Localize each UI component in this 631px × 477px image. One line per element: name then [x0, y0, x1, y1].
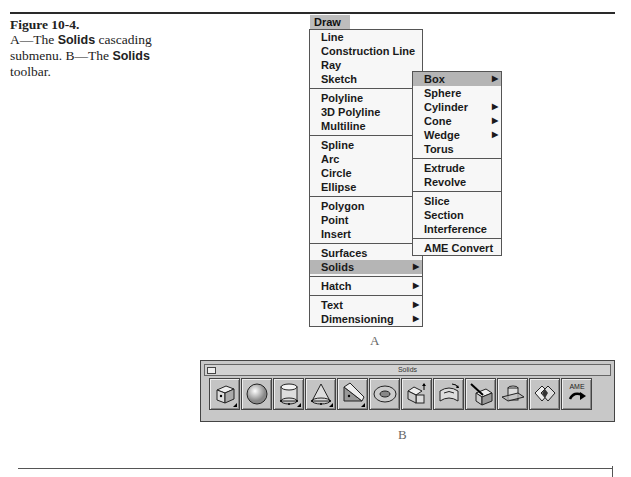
menu-item-label: Revolve — [424, 176, 466, 188]
draw-menu: LineConstruction LineRaySketchPolyline3D… — [309, 29, 423, 327]
menubar-draw[interactable]: Draw — [310, 15, 350, 29]
draw-menu-item-circle[interactable]: Circle — [310, 166, 422, 180]
menu-item-label: Text — [321, 299, 343, 311]
menu-item-label: Multiline — [321, 120, 366, 132]
draw-menu-item-polygon[interactable]: Polygon — [310, 199, 422, 213]
menu-item-label: Point — [321, 214, 349, 226]
draw-menu-item-ray[interactable]: Ray — [310, 58, 422, 72]
menu-item-label: AME Convert — [424, 242, 493, 254]
solids-menu-item-cylinder[interactable]: Cylinder▶ — [413, 100, 501, 114]
control-menu-box[interactable] — [207, 367, 216, 374]
flyout-indicator-icon — [361, 403, 365, 407]
bottom-rule-edge — [612, 466, 613, 477]
draw-menu-item-line[interactable]: Line — [310, 30, 422, 44]
submenu-arrow-icon: ▶ — [492, 114, 498, 128]
toolbar-buttons: AME — [209, 378, 593, 410]
slice-button[interactable] — [465, 378, 496, 410]
draw-menu-item-point[interactable]: Point — [310, 213, 422, 227]
wedge-button[interactable] — [337, 378, 368, 410]
draw-menu-item-multiline[interactable]: Multiline — [310, 119, 422, 133]
section-button[interactable] — [497, 378, 528, 410]
menu-item-label: Box — [424, 73, 445, 85]
bottom-rule — [18, 468, 613, 469]
menu-item-label: Circle — [321, 167, 352, 179]
draw-menu-item-insert[interactable]: Insert — [310, 227, 422, 241]
revolve-icon — [436, 381, 462, 407]
draw-menu-item-solids[interactable]: Solids▶ — [310, 260, 422, 274]
draw-menu-item-dimensioning[interactable]: Dimensioning▶ — [310, 312, 422, 326]
draw-menu-item-sketch[interactable]: Sketch — [310, 72, 422, 86]
interference-button[interactable] — [529, 378, 560, 410]
figure-title: Figure 10-4. — [10, 17, 185, 32]
sphere-button[interactable] — [241, 378, 272, 410]
menu-item-label: Polyline — [321, 92, 363, 104]
solids-menu-item-wedge[interactable]: Wedge▶ — [413, 128, 501, 142]
draw-menu-item-ellipse[interactable]: Ellipse — [310, 180, 422, 194]
menu-item-label: Section — [424, 209, 464, 221]
menu-separator — [310, 135, 422, 136]
menu-item-label: Extrude — [424, 162, 465, 174]
solids-menu-item-interference[interactable]: Interference — [413, 222, 501, 236]
extrude-icon — [404, 381, 430, 407]
slice-icon — [468, 381, 494, 407]
toolbar-title-bar[interactable]: Solids — [204, 364, 611, 376]
menu-separator — [413, 158, 501, 159]
solids-menu-item-slice[interactable]: Slice — [413, 194, 501, 208]
submenu-arrow-icon: ▶ — [492, 128, 498, 142]
solids-menu-item-cone[interactable]: Cone▶ — [413, 114, 501, 128]
submenu-arrow-icon: ▶ — [413, 279, 419, 293]
solids-menu-item-sphere[interactable]: Sphere — [413, 86, 501, 100]
menu-item-label: Line — [321, 31, 344, 43]
interference-icon — [532, 381, 558, 407]
menu-item-label: Cone — [424, 115, 452, 127]
draw-menu-item-arc[interactable]: Arc — [310, 152, 422, 166]
svg-text:AME: AME — [569, 383, 585, 390]
draw-menu-item-construction-line[interactable]: Construction Line — [310, 44, 422, 58]
draw-menu-item-3d-polyline[interactable]: 3D Polyline — [310, 105, 422, 119]
figure-caption: Figure 10-4. A—The Solids cascading subm… — [10, 17, 185, 79]
menu-item-label: Dimensioning — [321, 313, 394, 325]
ame-convert-button[interactable]: AME — [561, 378, 592, 410]
draw-menu-item-polyline[interactable]: Polyline — [310, 91, 422, 105]
caption-bold: Solids — [58, 33, 96, 47]
submenu-arrow-icon: ▶ — [413, 260, 419, 274]
toolbar-title: Solids — [398, 366, 417, 373]
label-a: A — [370, 333, 379, 349]
menu-separator — [310, 276, 422, 277]
top-rule — [10, 12, 615, 14]
draw-menu-item-hatch[interactable]: Hatch▶ — [310, 279, 422, 293]
caption-bold: Solids — [112, 49, 150, 63]
extrude-button[interactable] — [401, 378, 432, 410]
caption-text: A—The — [10, 32, 58, 47]
cylinder-button[interactable] — [273, 378, 304, 410]
menu-item-label: Spline — [321, 139, 354, 151]
solids-menu-item-torus[interactable]: Torus — [413, 142, 501, 156]
solids-menu-item-ame-convert[interactable]: AME Convert — [413, 241, 501, 255]
menu-item-label: Ray — [321, 59, 341, 71]
menu-item-label: Wedge — [424, 129, 460, 141]
draw-menu-item-spline[interactable]: Spline — [310, 138, 422, 152]
flyout-indicator-icon — [329, 403, 333, 407]
draw-menu-item-text[interactable]: Text▶ — [310, 298, 422, 312]
solids-menu-item-revolve[interactable]: Revolve — [413, 175, 501, 189]
menu-item-label: Hatch — [321, 280, 352, 292]
menu-item-label: Ellipse — [321, 181, 356, 193]
solids-menu-item-section[interactable]: Section — [413, 208, 501, 222]
solids-menu-item-box[interactable]: Box▶ — [413, 72, 501, 86]
menu-separator — [310, 88, 422, 89]
menu-item-label: Insert — [321, 228, 351, 240]
revolve-button[interactable] — [433, 378, 464, 410]
menu-item-label: Arc — [321, 153, 339, 165]
menu-item-label: Torus — [424, 143, 454, 155]
section-icon — [500, 381, 526, 407]
box-button[interactable] — [209, 378, 240, 410]
menu-separator — [310, 196, 422, 197]
menu-item-label: Surfaces — [321, 247, 367, 259]
draw-menu-item-surfaces[interactable]: Surfaces▶ — [310, 246, 422, 260]
solids-menu-item-extrude[interactable]: Extrude — [413, 161, 501, 175]
cone-button[interactable] — [305, 378, 336, 410]
menu-item-label: 3D Polyline — [321, 106, 380, 118]
torus-button[interactable] — [369, 378, 400, 410]
menu-item-label: Polygon — [321, 200, 364, 212]
menu-separator — [310, 243, 422, 244]
